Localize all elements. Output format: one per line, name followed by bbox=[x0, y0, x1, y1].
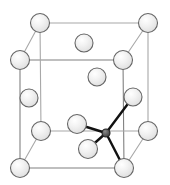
atom-corner-back-bottom-right bbox=[139, 122, 158, 141]
crystal-unit-cell-figure bbox=[0, 0, 170, 185]
atom-corner-front-top-right bbox=[114, 51, 133, 70]
atom-face-center-front bbox=[68, 115, 87, 134]
atom-face-center-left bbox=[20, 89, 38, 107]
atom-corner-front-bottom-left bbox=[11, 159, 30, 178]
atom-face-center-bottom bbox=[79, 140, 98, 159]
back-left-edge bbox=[40, 23, 41, 131]
unit-cell-svg bbox=[0, 0, 170, 185]
atom-corner-back-top-left bbox=[31, 14, 50, 33]
atoms-layer bbox=[11, 14, 158, 178]
front-right-edge bbox=[123, 60, 124, 168]
atom-corner-back-top-right bbox=[139, 14, 158, 33]
atom-face-center-right bbox=[124, 88, 142, 106]
atom-face-center-back bbox=[88, 68, 106, 86]
atom-tetrahedral-center bbox=[102, 129, 110, 137]
atom-corner-front-bottom-right bbox=[115, 159, 134, 178]
atom-corner-back-bottom-left bbox=[32, 122, 51, 141]
atom-corner-front-top-left bbox=[11, 51, 30, 70]
atom-face-center-top bbox=[75, 34, 93, 52]
